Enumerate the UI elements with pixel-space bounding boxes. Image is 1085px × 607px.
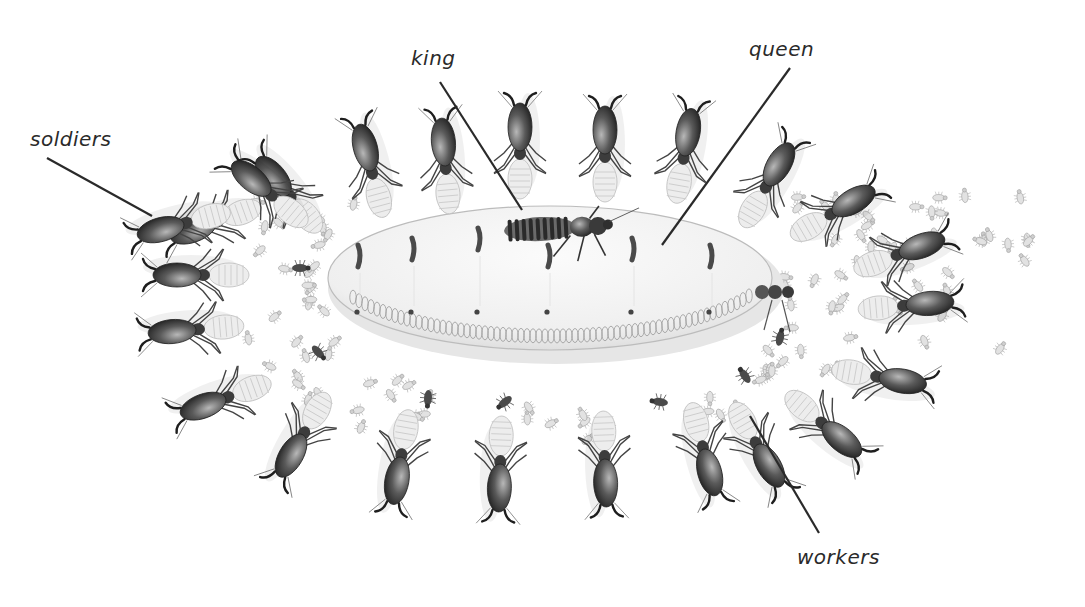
termite-colony-diagram: soldiers king queen workers — [0, 0, 1085, 607]
leader-line-soldiers — [47, 158, 152, 216]
label-queen: queen — [749, 37, 814, 61]
label-workers: workers — [797, 545, 880, 569]
label-king: king — [411, 46, 456, 70]
label-soldiers: soldiers — [30, 127, 111, 151]
colony-illustration — [0, 0, 1085, 607]
